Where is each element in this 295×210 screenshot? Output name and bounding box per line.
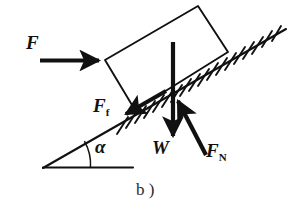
label-applied-force: F [26,33,39,52]
label-Ff-subscript: f [106,106,110,118]
label-weight: W [152,138,169,157]
diagram-canvas [0,0,295,210]
force-vector-FN [178,101,206,155]
label-friction-force: Ff [93,96,109,115]
label-W-symbol: W [152,137,169,158]
label-FN-symbol: F [206,140,219,161]
label-alpha-symbol: α [95,136,106,157]
label-F-symbol: F [26,32,39,53]
label-FN-subscript: N [219,151,227,163]
label-Ff-symbol: F [93,95,106,116]
block-shape [105,6,228,110]
physics-figure: F Ff W FN α b ) [0,0,295,210]
label-normal-force: FN [206,141,227,160]
figure-caption: b ) [136,181,154,198]
label-incline-angle: α [95,137,106,156]
angle-arc [84,141,90,167]
